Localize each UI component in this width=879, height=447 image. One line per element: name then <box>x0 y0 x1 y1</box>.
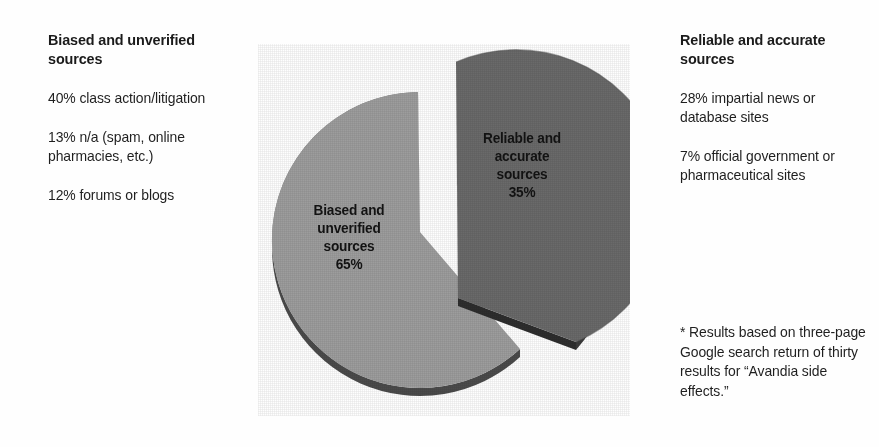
legend-item-official-government: 7% official government or pharmaceutical… <box>680 146 866 184</box>
legend-column-reliable: Reliable and accurate sources 28% impart… <box>680 30 879 184</box>
chart-footnote: * Results based on three-page Google sea… <box>680 322 871 400</box>
pie-slice-reliable-top <box>456 50 630 342</box>
legend-item-impartial-news: 28% impartial news or database sites <box>680 88 866 126</box>
pie-chart-svg <box>258 44 630 416</box>
legend-heading-biased: Biased and unverified sources <box>48 30 251 68</box>
legend-column-biased: Biased and unverified sources 40% class … <box>48 30 266 204</box>
legend-item-class-action: 40% class action/litigation <box>48 88 251 107</box>
legend-item-forums-blogs: 12% forums or blogs <box>48 185 251 204</box>
legend-item-na-spam: 13% n/a (spam, online pharmacies, etc.) <box>48 127 251 165</box>
pie-chart-figure: Biased and unverified sources 40% class … <box>0 0 879 447</box>
pie-chart: Biased and unverified sources 65% Reliab… <box>258 44 630 416</box>
legend-heading-reliable: Reliable and accurate sources <box>680 30 866 68</box>
